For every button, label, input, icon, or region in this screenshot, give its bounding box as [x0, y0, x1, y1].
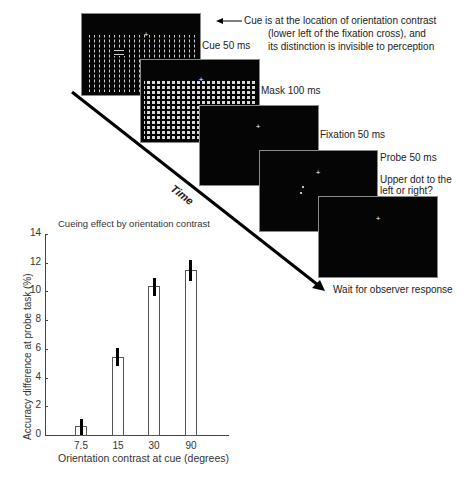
error-bar	[153, 278, 156, 296]
cue-note-line2: (lower left of the fixation cross), and	[268, 28, 426, 40]
probe-upper-dot	[302, 186, 304, 188]
y-tick	[45, 435, 48, 436]
x-tick-label: 90	[176, 440, 206, 451]
probe-duration-label: Probe 50 ms	[380, 152, 437, 164]
response-panel: +	[318, 196, 438, 278]
x-tick-label: 30	[139, 440, 169, 451]
fixation-duration-label: Fixation 50 ms	[320, 129, 385, 141]
error-bar	[80, 419, 83, 435]
bar-30	[148, 286, 160, 436]
y-tick-label: 14	[21, 227, 41, 238]
fixation-cross-icon: +	[142, 31, 150, 39]
bar-90	[185, 270, 197, 436]
probe-lower-dot	[300, 192, 302, 194]
x-axis	[45, 435, 229, 436]
y-tick-label: 12	[21, 256, 41, 267]
y-tick	[45, 263, 48, 264]
y-tick	[45, 349, 48, 350]
bar-15	[112, 357, 124, 436]
end-label: Wait for observer response	[333, 284, 453, 296]
mask-duration-label: Mask 100 ms	[261, 85, 320, 97]
fixation-cross-icon: +	[374, 215, 382, 223]
y-axis-label: Accuracy difference at probe task (%)	[22, 273, 33, 440]
fixation-cross-icon: +	[254, 123, 262, 131]
cue-duration-label: Cue 50 ms	[202, 40, 250, 52]
y-axis	[45, 234, 46, 435]
x-tick-label: 7.5	[66, 440, 96, 451]
y-tick	[45, 378, 48, 379]
fixation-cross-icon: +	[314, 169, 322, 177]
x-axis-label: Orientation contrast at cue (degrees)	[58, 452, 229, 464]
cue-note-line1: Cue is at the location of orientation co…	[244, 15, 436, 27]
x-tick-label: 15	[103, 440, 133, 451]
chart-title: Cueing effect by orientation contrast	[58, 218, 210, 229]
y-tick	[45, 234, 48, 235]
fixation-cross-icon: +	[197, 76, 205, 84]
left-arrow-icon	[216, 17, 242, 25]
cue-note-line3: its distinction is invisible to percepti…	[268, 41, 434, 53]
y-tick	[45, 291, 48, 292]
y-tick	[45, 320, 48, 321]
error-bar	[116, 348, 119, 366]
y-tick	[45, 406, 48, 407]
error-bar	[189, 260, 192, 281]
